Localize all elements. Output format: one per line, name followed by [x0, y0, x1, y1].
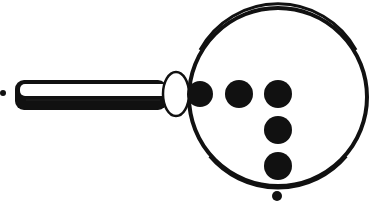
left-dot-icon — [0, 90, 6, 96]
bottom-dot-icon — [272, 191, 282, 201]
handle-icon — [15, 80, 167, 110]
magnifying-glass-illustration — [0, 0, 392, 210]
dot-icon — [264, 152, 292, 180]
dot-icon — [225, 80, 253, 108]
collar-icon — [163, 72, 189, 116]
dot-icon — [264, 116, 292, 144]
dot-icon — [264, 80, 292, 108]
dot-icon — [187, 81, 213, 107]
braille-dots — [187, 80, 292, 180]
